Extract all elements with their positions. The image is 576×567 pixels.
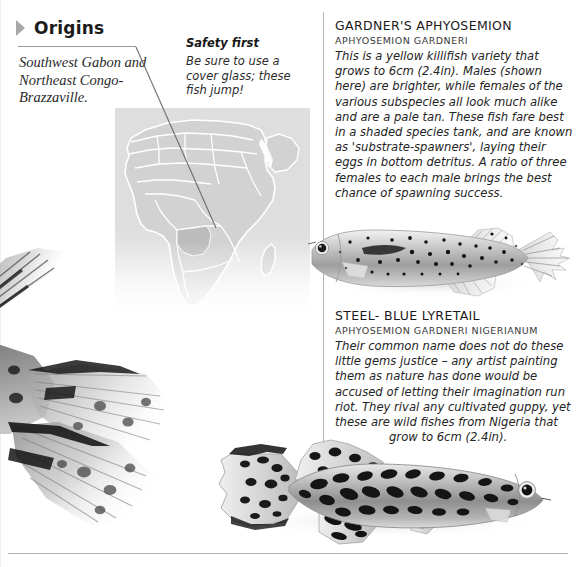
africa-map [115, 108, 310, 323]
page-spread: Origins Southwest Gabon and Northeast Co… [0, 0, 576, 567]
gardners-aphyosemion-photo [302, 218, 576, 304]
species-entry-steel-blue-lyretail: STEEL- BLUE LYRETAIL APHYOSEMION GARDNER… [335, 308, 573, 445]
species-description-main: Their common name does not do these litt… [335, 339, 571, 429]
species-description: Their common name does not do these litt… [335, 339, 573, 445]
species-description: This is a yellow killifish variety that … [335, 49, 573, 201]
steel-blue-lyretail-photo [215, 438, 559, 553]
origins-divider [18, 46, 136, 47]
triangle-right-icon [16, 20, 25, 36]
safety-callout-title: Safety first [186, 36, 311, 50]
origins-caption: Southwest Gabon and Northeast Congo-Braz… [19, 54, 154, 107]
page-title: Origins [34, 18, 104, 38]
species-common-name: STEEL- BLUE LYRETAIL [335, 308, 573, 323]
species-latin-name: APHYOSEMION GARDNERI [335, 34, 573, 48]
safety-callout: Safety first Be sure to use a cover glas… [186, 36, 311, 98]
guppy-tail-top-left-photo [0, 248, 76, 330]
page-bottom-rule [8, 553, 568, 554]
map-graphic [115, 108, 310, 323]
guppy-body-left-photo [0, 330, 180, 545]
safety-callout-body: Be sure to use a cover glass; these fish… [186, 54, 311, 98]
species-common-name: GARDNER'S APHYOSEMION [335, 18, 573, 33]
origins-header: Origins [16, 18, 104, 38]
species-latin-name: APHYOSEMION GARDNERI NIGERIANUM [335, 324, 573, 338]
species-entry-gardners-aphyosemion: GARDNER'S APHYOSEMION APHYOSEMION GARDNE… [335, 18, 573, 201]
